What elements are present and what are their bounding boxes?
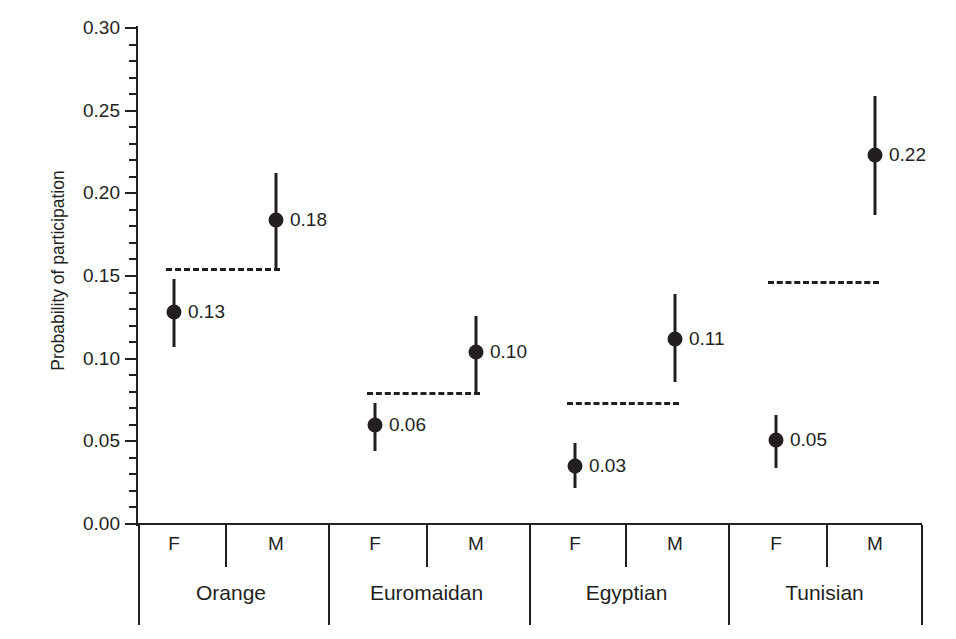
group-divider xyxy=(328,525,330,625)
group-label-egyptian: Egyptian xyxy=(586,581,668,605)
group-label-orange: Orange xyxy=(196,581,266,605)
y-axis-minor-tick xyxy=(129,60,136,62)
y-axis-major-tick xyxy=(125,440,136,442)
y-axis-major-tick xyxy=(125,358,136,360)
sub-category-label-f: F xyxy=(569,533,581,555)
y-axis-minor-tick xyxy=(129,506,136,508)
y-axis-tick-label: 0.25 xyxy=(56,101,120,120)
group-divider xyxy=(529,525,531,625)
chart-canvas: Probability of participation 0.000.050.1… xyxy=(0,0,956,639)
y-axis-minor-tick xyxy=(129,407,136,409)
sub-category-divider xyxy=(625,525,627,567)
y-axis-minor-tick xyxy=(129,258,136,260)
y-axis-major-tick xyxy=(125,110,136,112)
data-point-label: 0.06 xyxy=(389,414,426,436)
data-point xyxy=(868,148,883,163)
sub-category-label-f: F xyxy=(168,533,180,555)
y-axis-minor-tick xyxy=(129,93,136,95)
y-axis-minor-tick xyxy=(129,341,136,343)
group-divider xyxy=(921,525,923,625)
y-axis-minor-tick xyxy=(129,325,136,327)
data-point xyxy=(269,212,284,227)
data-point xyxy=(568,459,583,474)
data-point-label: 0.13 xyxy=(188,301,225,323)
sub-category-divider xyxy=(426,525,428,567)
y-axis-major-tick xyxy=(125,27,136,29)
data-point xyxy=(668,331,683,346)
group-divider xyxy=(728,525,730,625)
data-point xyxy=(368,417,383,432)
sub-category-label-m: M xyxy=(867,533,883,555)
y-axis-minor-tick xyxy=(129,209,136,211)
data-point-label: 0.05 xyxy=(790,429,827,451)
y-axis-minor-tick xyxy=(129,490,136,492)
y-axis-minor-tick xyxy=(129,457,136,459)
y-axis-minor-tick xyxy=(129,143,136,145)
data-point xyxy=(469,345,484,360)
group-label-tunisian: Tunisian xyxy=(785,581,864,605)
y-axis-minor-tick xyxy=(129,44,136,46)
data-point xyxy=(167,305,182,320)
y-axis-tick-label: 0.00 xyxy=(56,514,120,533)
y-axis-tick-label: 0.10 xyxy=(56,349,120,368)
y-axis-tick-label: 0.15 xyxy=(56,266,120,285)
y-axis-major-tick xyxy=(125,523,136,525)
y-axis-minor-tick xyxy=(129,225,136,227)
sub-category-label-m: M xyxy=(468,533,484,555)
reference-line-euromaidan xyxy=(367,392,480,395)
y-axis-minor-tick xyxy=(129,159,136,161)
data-point-label: 0.11 xyxy=(689,328,725,350)
reference-line-orange xyxy=(166,268,280,271)
sub-category-label-m: M xyxy=(268,533,284,555)
data-point-label: 0.10 xyxy=(490,341,527,363)
y-axis-minor-tick xyxy=(129,374,136,376)
sub-category-label-f: F xyxy=(369,533,381,555)
y-axis-major-tick xyxy=(125,275,136,277)
data-point-label: 0.03 xyxy=(589,455,626,477)
y-axis-minor-tick xyxy=(129,292,136,294)
reference-line-tunisian xyxy=(768,281,879,284)
sub-category-label-m: M xyxy=(667,533,683,555)
y-axis-major-tick xyxy=(125,192,136,194)
y-axis-minor-tick xyxy=(129,126,136,128)
y-axis-minor-tick xyxy=(129,242,136,244)
sub-category-divider xyxy=(225,525,227,567)
group-divider xyxy=(138,525,140,625)
group-label-euromaidan: Euromaidan xyxy=(370,581,483,605)
y-axis-minor-tick xyxy=(129,391,136,393)
y-axis-minor-tick xyxy=(129,77,136,79)
data-point xyxy=(769,432,784,447)
y-axis-minor-tick xyxy=(129,424,136,426)
data-point-label: 0.18 xyxy=(290,209,327,231)
y-axis-minor-tick xyxy=(129,308,136,310)
y-axis-tick-label: 0.05 xyxy=(56,431,120,450)
reference-line-egyptian xyxy=(567,402,679,405)
y-axis-tick-label: 0.20 xyxy=(56,183,120,202)
sub-category-divider xyxy=(826,525,828,567)
y-axis-tick-label: 0.30 xyxy=(56,18,120,37)
y-axis-line xyxy=(136,26,138,526)
y-axis-minor-tick xyxy=(129,473,136,475)
data-point-label: 0.22 xyxy=(889,144,926,166)
sub-category-label-f: F xyxy=(770,533,782,555)
y-axis-minor-tick xyxy=(129,176,136,178)
